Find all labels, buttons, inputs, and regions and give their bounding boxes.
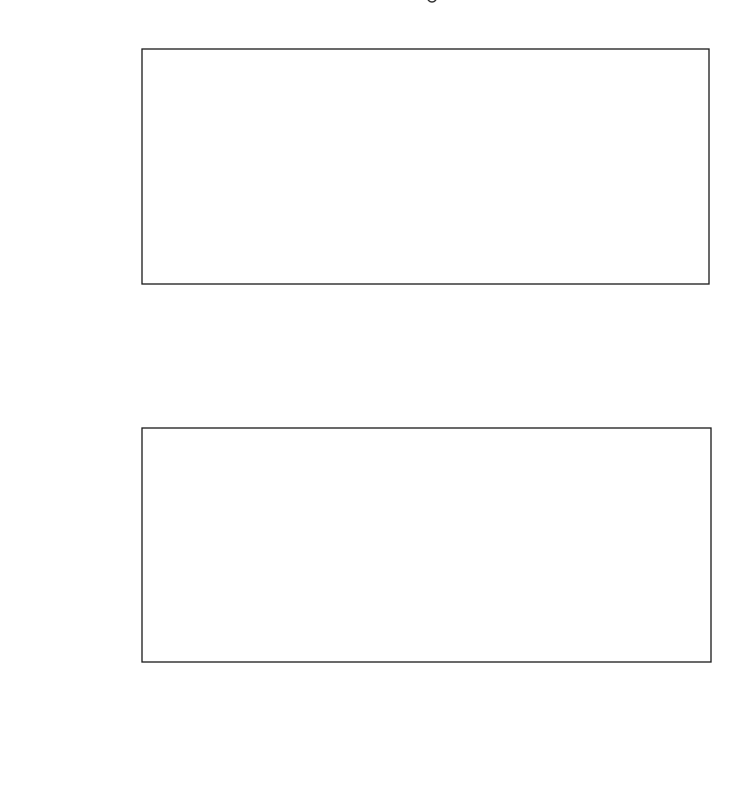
clipped-title-fragment	[428, 0, 436, 2]
top-plot-frame	[142, 49, 709, 284]
bottom-plot-frame	[142, 428, 711, 662]
xy-scatter-chart	[142, 428, 711, 662]
fitness-line-chart	[142, 49, 709, 284]
figure-canvas	[0, 0, 750, 801]
